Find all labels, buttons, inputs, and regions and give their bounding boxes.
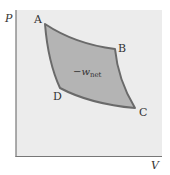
net-work-symbol: −w: [73, 66, 90, 77]
x-axis-label: V: [151, 159, 160, 172]
point-label-d: D: [53, 90, 62, 103]
y-axis-label: P: [4, 12, 13, 25]
pv-diagram: P V A B C D −wnet: [0, 0, 170, 175]
point-label-a: A: [33, 13, 43, 26]
point-label-c: C: [139, 106, 147, 119]
point-label-b: B: [118, 42, 126, 55]
net-work-subscript: net: [90, 71, 102, 79]
